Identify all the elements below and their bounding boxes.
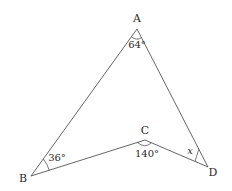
- vertex-label-c: C: [141, 124, 149, 137]
- edge-ab: [31, 29, 137, 176]
- vertex-label-d: D: [209, 166, 218, 179]
- angle-label-b: 36°: [48, 152, 66, 163]
- angle-label-a: 64°: [128, 39, 146, 50]
- vertex-label-b: B: [19, 172, 27, 185]
- vertex-label-a: A: [132, 12, 142, 25]
- angle-arc-d: [195, 149, 199, 161]
- edge-da: [137, 29, 208, 167]
- angle-arc-c: [137, 142, 151, 145]
- angle-label-d: x: [187, 145, 193, 156]
- geometry-diagram: A B C D 64° 36° 140° x: [0, 0, 232, 191]
- angle-label-c: 140°: [135, 148, 159, 159]
